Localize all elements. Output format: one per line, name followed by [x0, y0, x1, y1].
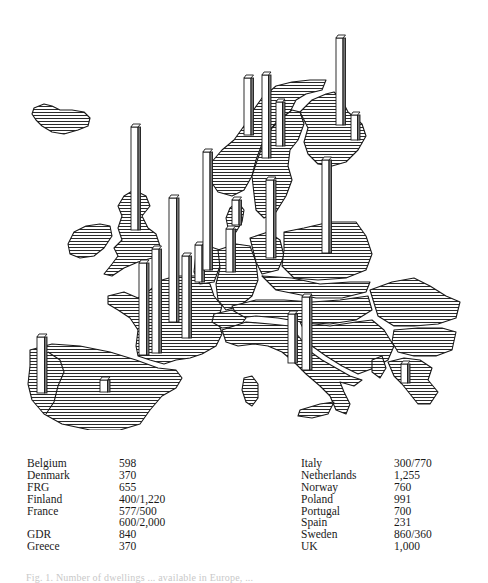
table-row: Greece370 [27, 540, 165, 552]
country-value: 370 [119, 469, 136, 481]
country-name: Poland [301, 493, 394, 505]
country-name: Norway [301, 481, 394, 493]
country-name: Netherlands [301, 469, 394, 481]
country-name: Italy [301, 457, 394, 469]
ireland-shape [68, 224, 112, 258]
bar-gdr [266, 177, 276, 258]
bar-france-4 [182, 253, 192, 338]
bar-france-1 [139, 260, 149, 355]
country-value: 1,255 [394, 469, 420, 481]
bar-finland-2 [351, 112, 360, 140]
table-row: UK1,000 [301, 540, 432, 552]
bar-frg [226, 226, 236, 272]
bar-norway-1 [244, 75, 254, 135]
table-row: Finland400/1,220 [27, 493, 165, 505]
country-name [27, 516, 119, 528]
bar-netherlands [203, 149, 213, 270]
bar-italy-2 [288, 311, 298, 363]
country-value: 760 [394, 481, 411, 493]
country-value: 1,000 [394, 540, 420, 552]
country-name: Belgium [27, 457, 119, 469]
table-row: FRG655 [27, 481, 165, 493]
table-row: France577/500 [27, 505, 165, 517]
country-name: GDR [27, 528, 119, 540]
bar-italy-1 [302, 294, 312, 370]
table-row: Sweden860/360 [301, 528, 432, 540]
country-value: 300/770 [394, 457, 432, 469]
greece-shape [388, 358, 438, 404]
country-name: Spain [301, 516, 394, 528]
country-value: 700 [394, 505, 411, 517]
bar-uk [131, 124, 141, 230]
bar-portugal [37, 334, 47, 393]
bar-greece [401, 361, 410, 383]
country-value: 231 [394, 516, 411, 528]
bar-france-2 [152, 246, 162, 353]
figure-caption: Fig. 1. Number of dwellings ... availabl… [26, 572, 466, 583]
country-value: 991 [394, 493, 411, 505]
country-value: 860/360 [394, 528, 432, 540]
country-name: Finland [27, 493, 119, 505]
country-value: 577/500 [119, 505, 157, 517]
table-row: Netherlands1,255 [301, 469, 432, 481]
data-table-right: Italy300/770 Netherlands1,255 Norway760 … [301, 457, 432, 552]
country-value: 840 [119, 528, 136, 540]
bar-finland-1 [336, 35, 346, 125]
country-value: 600/2,000 [119, 516, 165, 528]
bar-spain [100, 377, 110, 392]
table-row: GDR840 [27, 528, 165, 540]
iceland-shape [32, 104, 90, 134]
sardinia-shape [242, 376, 258, 406]
bar-poland [322, 157, 332, 253]
country-name: Portugal [301, 505, 394, 517]
table-row: Poland991 [301, 493, 432, 505]
country-value: 598 [119, 457, 136, 469]
bar-norway-2 [262, 72, 271, 158]
table-row: Spain231 [301, 516, 432, 528]
bar-sweden [276, 99, 285, 146]
table-row: Denmark370 [27, 469, 165, 481]
france-shape [108, 276, 222, 364]
table-row: Italy300/770 [301, 457, 432, 469]
frg-shape [216, 244, 258, 310]
europe-bar-map [0, 0, 488, 430]
table-row: Portugal700 [301, 505, 432, 517]
country-value: 370 [119, 540, 136, 552]
romania-shape [370, 278, 460, 326]
country-name: Denmark [27, 469, 119, 481]
country-name: Sweden [301, 528, 394, 540]
sicily-shape [298, 402, 334, 418]
country-name: France [27, 505, 119, 517]
country-name: FRG [27, 481, 119, 493]
table-row: Norway760 [301, 481, 432, 493]
country-value: 400/1,220 [119, 493, 165, 505]
country-name: Greece [27, 540, 119, 552]
bar-france-3 [169, 195, 179, 322]
country-value: 655 [119, 481, 136, 493]
table-row: 600/2,000 [27, 516, 165, 528]
data-table-left: Belgium598 Denmark370 FRG655 Finland400/… [27, 457, 165, 552]
bulgaria-shape [392, 328, 456, 356]
country-name: UK [301, 540, 394, 552]
bar-denmark [232, 197, 242, 225]
table-row: Belgium598 [27, 457, 165, 469]
